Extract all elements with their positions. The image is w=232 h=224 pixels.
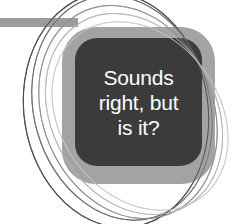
inner-rounded-square	[75, 38, 202, 166]
callout-graphic: Sounds right, but is it?	[0, 0, 232, 224]
graphic-canvas	[0, 0, 232, 224]
